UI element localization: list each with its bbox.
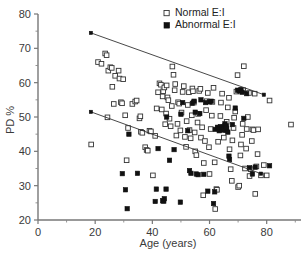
data-point [167, 158, 171, 162]
data-point [154, 106, 159, 111]
data-point [104, 53, 109, 58]
data-point [253, 192, 258, 197]
data-point [198, 111, 202, 115]
data-point [201, 193, 206, 198]
data-point [198, 87, 203, 92]
data-point [222, 135, 227, 140]
legend-marker-abnormal [164, 23, 170, 29]
data-point [166, 98, 171, 103]
data-point [192, 99, 196, 103]
data-point [230, 122, 234, 126]
data-point [186, 103, 191, 108]
data-point [123, 113, 128, 118]
data-point [235, 73, 240, 78]
regression-line-endpoint [262, 93, 265, 96]
y-tick-label: 30 [19, 180, 31, 192]
data-point [262, 163, 267, 168]
data-point [227, 147, 232, 152]
data-point [191, 89, 196, 94]
data-point [228, 167, 233, 172]
data-point [289, 122, 294, 127]
data-point [195, 120, 200, 125]
data-point [156, 146, 160, 150]
data-point [125, 206, 129, 210]
data-point [253, 165, 257, 169]
data-point [210, 113, 215, 118]
data-point [173, 82, 178, 87]
data-point [251, 128, 256, 133]
legend-label-abnormal: Abnormal E:I [175, 18, 236, 30]
x-tick-label: 20 [89, 226, 101, 238]
data-point [154, 187, 158, 191]
data-point [244, 91, 248, 95]
data-point [169, 104, 174, 109]
data-point [203, 100, 207, 104]
legend-label-normal: Normal E:I [175, 6, 225, 18]
data-point [134, 98, 139, 103]
data-point [226, 105, 231, 110]
data-point [109, 66, 114, 71]
regression-line-endpoint [89, 31, 92, 34]
data-point [192, 130, 197, 135]
data-point [186, 129, 190, 133]
data-point [239, 142, 244, 147]
data-point [200, 125, 205, 130]
data-point [206, 189, 210, 193]
data-point [250, 172, 254, 176]
data-point [199, 98, 203, 102]
data-point [168, 124, 173, 129]
data-point [111, 102, 116, 107]
data-point [163, 122, 168, 127]
data-point [255, 152, 260, 157]
data-point [172, 147, 176, 151]
y-tick-label: 20 [19, 214, 31, 226]
data-point [207, 145, 212, 150]
data-point [184, 119, 189, 124]
data-point [264, 173, 269, 178]
data-point [164, 83, 169, 88]
data-point [213, 207, 218, 212]
data-point [145, 148, 150, 153]
data-point [164, 115, 168, 119]
data-point [240, 133, 245, 138]
y-tick-label: 80 [19, 8, 31, 20]
data-point [218, 114, 223, 119]
data-point [233, 106, 237, 110]
data-point [212, 160, 217, 165]
data-point [220, 91, 225, 96]
data-point [181, 84, 186, 89]
data-point [180, 90, 185, 95]
data-point [120, 101, 125, 106]
data-point [227, 95, 232, 100]
data-point [209, 99, 213, 103]
data-point [202, 161, 207, 166]
data-point [242, 116, 246, 120]
data-point [120, 171, 124, 175]
data-point [206, 91, 211, 96]
data-point [250, 139, 255, 144]
data-point [202, 172, 206, 176]
scatter-plot-figure: 20304050607080 020406080 PD % Age (years… [0, 0, 306, 257]
data-point [211, 86, 216, 91]
y-tick-label: 70 [19, 42, 31, 54]
data-point [188, 136, 193, 141]
data-point [208, 127, 213, 132]
data-point [216, 139, 221, 144]
data-point [171, 72, 176, 77]
data-point [196, 172, 200, 176]
data-point [256, 127, 261, 132]
data-point [211, 201, 215, 205]
data-point [110, 84, 115, 89]
data-point [156, 90, 161, 95]
x-tick-label: 0 [35, 226, 41, 238]
legend-marker-normal [164, 11, 169, 16]
data-point [267, 98, 272, 103]
data-point [242, 64, 247, 69]
data-point [178, 200, 182, 204]
data-point [240, 90, 244, 94]
data-point [227, 157, 231, 161]
data-point [127, 132, 131, 136]
data-point [164, 187, 168, 191]
y-tick-label: 50 [19, 111, 31, 123]
data-point [178, 128, 183, 133]
